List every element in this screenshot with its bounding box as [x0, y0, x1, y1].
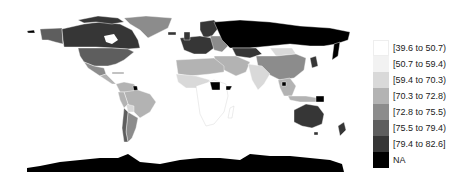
region-laos [282, 82, 286, 86]
region-uk [184, 32, 190, 40]
region-antarctica [27, 154, 344, 172]
legend-swatch [373, 40, 389, 56]
region-canada [62, 22, 140, 49]
legend-label: [75.5 to 79.4) [393, 121, 446, 135]
legend-item: [72.8 to 75.5) [373, 104, 469, 120]
region-north-africa [176, 58, 224, 76]
legend-swatch [373, 88, 389, 104]
legend-swatch [373, 120, 389, 136]
region-somalia [226, 86, 232, 90]
region-aleutians [27, 30, 35, 33]
legend-label: [50.7 to 59.4) [393, 57, 446, 71]
legend-label: [59.4 to 70.3) [393, 73, 446, 87]
legend-item: [70.3 to 72.8) [373, 88, 469, 104]
legend-label: [39.6 to 50.7) [393, 41, 446, 55]
legend-swatch [373, 56, 389, 72]
region-kamchatka [332, 42, 340, 60]
region-southeast-asia [278, 78, 296, 96]
legend-label: [79.4 to 82.6] [393, 137, 446, 151]
legend-item: [75.5 to 79.4) [373, 120, 469, 136]
region-madagascar [228, 106, 234, 118]
region-central-america [100, 74, 116, 84]
region-iceland [168, 32, 176, 35]
region-russia [214, 20, 350, 48]
region-argentina [126, 112, 138, 142]
region-arctic-islands [78, 16, 124, 24]
legend-swatch [373, 152, 389, 168]
region-korea-japan [310, 56, 318, 68]
region-new-zealand [338, 122, 346, 136]
region-indonesia [288, 96, 320, 102]
legend-label: NA [393, 153, 406, 167]
legend-item: [79.4 to 82.6] [373, 136, 469, 152]
legend-item: [59.4 to 70.3) [373, 72, 469, 88]
legend-swatch [373, 72, 389, 88]
region-sudan [210, 82, 220, 90]
legend-label: [72.8 to 75.5) [393, 105, 446, 119]
legend-item: [50.7 to 59.4) [373, 56, 469, 72]
legend-item: NA [373, 152, 469, 168]
region-australia [294, 104, 324, 128]
region-tasmania [314, 132, 318, 135]
world-choropleth-map [0, 0, 360, 186]
legend-item: [39.6 to 50.7) [373, 40, 469, 56]
legend-swatch [373, 104, 389, 120]
legend-swatch [373, 136, 389, 152]
region-papua-new-guinea [316, 96, 324, 102]
region-alaska [40, 28, 63, 44]
legend-label: [70.3 to 72.8) [393, 89, 446, 103]
region-caribbean [112, 72, 124, 74]
